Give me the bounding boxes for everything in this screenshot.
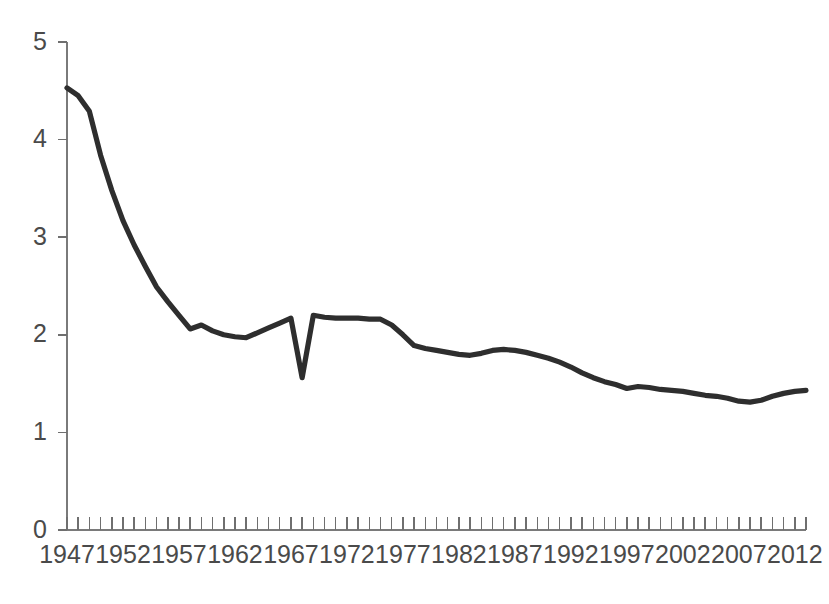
x-axis-tick-label: 1982 [431, 540, 487, 568]
x-axis-tick-label: 2002 [655, 540, 711, 568]
x-axis-tick-label: 1947 [39, 540, 95, 568]
x-axis-tick-label: 2007 [711, 540, 767, 568]
y-axis-tick-label: 4 [33, 124, 47, 152]
line-chart: 012345 194719521957196219671972197719821… [0, 0, 829, 604]
y-axis-tick-label: 2 [33, 319, 47, 347]
x-axis-tick-label: 1967 [263, 540, 319, 568]
x-axis-tick-label: 1957 [151, 540, 207, 568]
x-axis-tick-label: 1997 [599, 540, 655, 568]
y-axis-label-group: 012345 [33, 27, 47, 543]
chart-container: 012345 194719521957196219671972197719821… [0, 0, 829, 604]
y-axis-tick-label: 1 [33, 417, 47, 445]
y-axis-tick-label: 0 [33, 515, 47, 543]
plot-area [67, 88, 806, 402]
y-axis-tick-label: 3 [33, 222, 47, 250]
data-series-line [67, 88, 806, 402]
y-axis: 012345 [33, 27, 67, 543]
x-axis-tick-group [67, 517, 806, 530]
x-axis: 1947195219571962196719721977198219871992… [39, 517, 822, 568]
x-axis-tick-label: 1992 [543, 540, 599, 568]
x-axis-tick-label: 1962 [207, 540, 263, 568]
y-axis-tick-group [58, 42, 67, 530]
x-axis-tick-label: 1972 [319, 540, 375, 568]
x-axis-tick-label: 1987 [487, 540, 543, 568]
y-axis-tick-label: 5 [33, 27, 47, 55]
x-axis-tick-label: 2012 [767, 540, 823, 568]
x-axis-label-group: 1947195219571962196719721977198219871992… [39, 540, 822, 568]
x-axis-tick-label: 1952 [95, 540, 151, 568]
x-axis-tick-label: 1977 [375, 540, 431, 568]
